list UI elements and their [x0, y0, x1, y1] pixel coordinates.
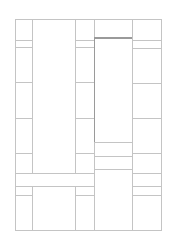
- cell-c3-r4: [75, 82, 95, 119]
- cell-c3-r1: [75, 19, 95, 41]
- cell-c3-r5: [75, 118, 95, 154]
- wireframe-diagram: [0, 0, 170, 248]
- cell-c5-r1: [132, 19, 162, 41]
- cell-c1-r9: [15, 195, 33, 231]
- cell-c3-r6: [75, 153, 95, 174]
- cell-c4-r4: [94, 156, 133, 170]
- cell-c1-r5: [15, 118, 33, 154]
- cell-c5-r3: [132, 48, 162, 84]
- cell-c5-r4: [132, 83, 162, 119]
- cell-band-left: [15, 173, 95, 187]
- cell-c5-r6: [132, 153, 162, 174]
- cell-c2-top: [32, 19, 76, 174]
- cell-c4-r3: [94, 142, 133, 157]
- cell-c3-r3: [75, 47, 95, 83]
- cell-c1-r6: [15, 153, 33, 174]
- cell-c1-r4: [15, 82, 33, 119]
- cell-c2-bottom: [32, 186, 76, 231]
- cell-c4-top: [94, 19, 133, 38]
- cell-c4-highlight: [94, 37, 133, 143]
- cell-c5-r9: [132, 195, 162, 231]
- cell-c5-r7: [132, 173, 162, 187]
- cell-c1-r3: [15, 47, 33, 83]
- cell-c4-r5: [94, 169, 133, 231]
- cell-c5-r5: [132, 118, 162, 154]
- cell-c1-r1: [15, 19, 33, 41]
- cell-c3-r9: [75, 195, 95, 231]
